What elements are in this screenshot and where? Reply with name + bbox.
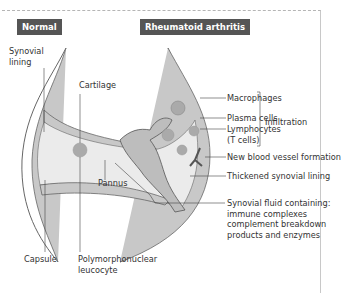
label-line: complement breakdown: [227, 219, 331, 230]
label-line: leucocyte: [78, 265, 157, 276]
label-capsule: Capsule: [24, 254, 57, 265]
ra-badge: Rheumatoid arthritis: [140, 19, 250, 35]
label-new-vessel: New blood vessel formation: [227, 152, 341, 163]
label-line: Polymorphonuclear: [78, 254, 157, 265]
label-line: products and enzymes: [227, 230, 331, 241]
label-line: Synovial: [9, 46, 44, 57]
label-macrophages: Macrophages: [227, 93, 282, 104]
label-line: immune complexes: [227, 209, 331, 220]
label-line: Synovial fluid containing:: [227, 198, 331, 209]
normal-badge: Normal: [17, 19, 62, 35]
label-cartilage: Cartilage: [79, 80, 116, 91]
label-line: (T cells): [227, 135, 281, 146]
label-thickened-lining: Thickened synovial lining: [227, 171, 330, 182]
label-synovial-fluid: Synovial fluid containing: immune comple…: [227, 198, 331, 240]
label-pmn: Polymorphonuclear leucocyte: [78, 254, 157, 275]
label-pannus: Pannus: [98, 178, 127, 189]
label-infiltration: Infiltration: [265, 117, 307, 128]
label-line: lining: [9, 57, 44, 68]
label-synovial-lining: Synovial lining: [9, 46, 44, 67]
